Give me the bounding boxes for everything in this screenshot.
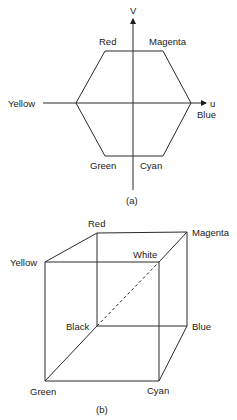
hex-label-green: Green: [90, 160, 116, 171]
cube-label-yellow: Yellow: [10, 257, 37, 268]
v-axis-label: V: [130, 5, 137, 16]
hex-label-red: Red: [99, 36, 116, 47]
edge-red-magenta: [97, 232, 187, 233]
u-axis-label: u: [210, 98, 215, 109]
hex-label-blue: Blue: [197, 109, 216, 120]
cube-label-green: Green: [30, 386, 56, 397]
hexagon-diagram: V u Red Magenta Yellow Blue Green Cyan (…: [8, 5, 216, 206]
cube-label-red: Red: [88, 218, 105, 229]
edge-cyan-blue: [159, 326, 187, 381]
edge-white-magenta: [159, 232, 187, 262]
cube-label-white: White: [133, 249, 157, 260]
cube-label-magenta: Magenta: [192, 227, 230, 238]
cube-label-black: Black: [66, 321, 89, 332]
cube-diagram: Red Magenta Yellow White Black Blue Gree…: [10, 218, 230, 415]
color-space-figure: V u Red Magenta Yellow Blue Green Cyan (…: [0, 0, 237, 420]
caption-a: (a): [126, 195, 138, 206]
diagonal-black-white: [97, 262, 159, 326]
cube-label-blue: Blue: [192, 321, 211, 332]
edge-green-black: [45, 326, 97, 381]
caption-b: (b): [96, 404, 108, 415]
edge-yellow-red: [45, 233, 97, 262]
cube-label-cyan: Cyan: [147, 385, 169, 396]
hex-label-yellow: Yellow: [8, 98, 35, 109]
hex-label-magenta: Magenta: [149, 36, 187, 47]
hex-label-cyan: Cyan: [140, 160, 162, 171]
